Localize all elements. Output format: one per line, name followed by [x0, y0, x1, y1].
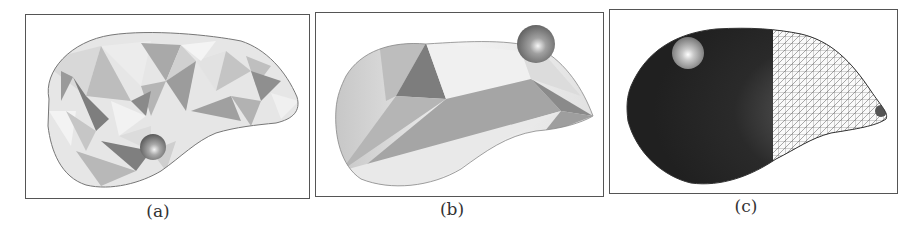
liver-mesh-coarse-render: [26, 15, 311, 200]
caption-b: (b): [422, 199, 482, 219]
caption-a: (a): [128, 201, 188, 221]
caption-c: (c): [716, 196, 776, 216]
figure-panel-b: [315, 12, 604, 197]
sphere-tool-icon: [672, 37, 704, 69]
figure-panel-a: [25, 14, 310, 199]
liver-smooth-wireframe-render: [610, 10, 899, 195]
figure-panel-c: [609, 9, 898, 194]
sphere-tool-icon: [140, 134, 166, 160]
liver-mesh-very-coarse-render: [316, 13, 605, 198]
sphere-tool-icon: [517, 25, 555, 63]
